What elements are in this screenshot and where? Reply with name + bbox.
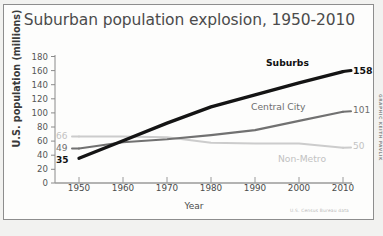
start-value-suburbs: 35 xyxy=(56,155,69,165)
x-tick-2010: 2010 xyxy=(323,183,363,193)
end-value-non-metro: 50 xyxy=(353,141,364,151)
x-tick-2000: 2000 xyxy=(279,183,319,193)
series-label-non-metro: Non-Metro xyxy=(278,153,326,164)
start-value-non-metro: 66 xyxy=(56,131,67,141)
x-tick-1990: 1990 xyxy=(235,183,275,193)
end-value-central-city: 101 xyxy=(353,105,370,115)
x-tick-1960: 1960 xyxy=(103,183,143,193)
series-line-suburbs xyxy=(79,72,343,159)
source-note: U.S. Census Bureau data xyxy=(234,208,349,213)
x-tick-1980: 1980 xyxy=(191,183,231,193)
series-label-central-city: Central City xyxy=(251,101,305,112)
series-label-suburbs: Suburbs xyxy=(266,57,309,68)
x-tick-1970: 1970 xyxy=(147,183,187,193)
end-value-suburbs: 158 xyxy=(353,65,373,76)
graphic-credit: GRAPHIC KEITH PAVLIK xyxy=(378,83,383,173)
start-value-central-city: 49 xyxy=(56,143,67,153)
x-tick-1950: 1950 xyxy=(59,183,99,193)
chart-frame: Suburban population explosion, 1950-2010… xyxy=(3,4,374,220)
